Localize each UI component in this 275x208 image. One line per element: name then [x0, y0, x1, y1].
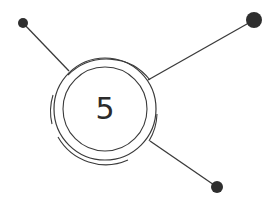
node-top-left — [18, 18, 28, 28]
node-bottom-right — [211, 181, 223, 193]
hub-number-label: 5 — [75, 88, 135, 130]
hub-arc-left — [51, 95, 53, 124]
hub-arc-bottom — [58, 137, 128, 165]
connector-bottom-right — [150, 141, 217, 187]
connector-top-left — [23, 23, 69, 71]
connector-top-right — [148, 20, 254, 80]
node-top-right — [246, 12, 262, 28]
hub-diagram — [0, 0, 275, 208]
